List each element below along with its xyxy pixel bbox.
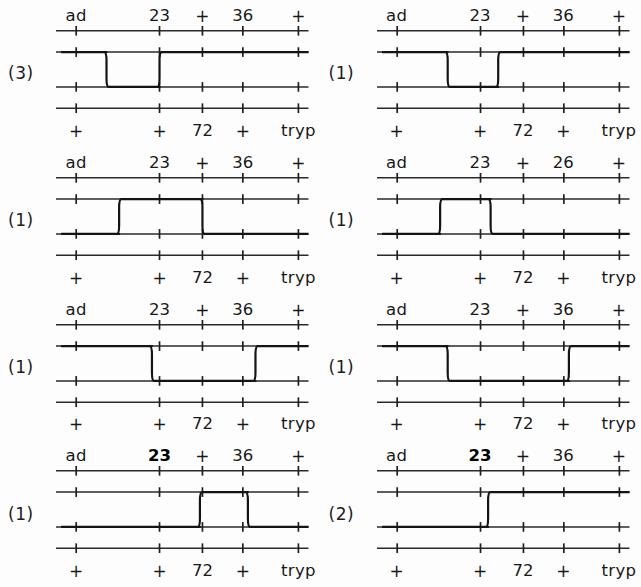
locus-label-bottom: + xyxy=(473,268,487,288)
bottom-locus-labels: ++72+tryp xyxy=(56,121,309,141)
bottom-locus-labels: ++72+tryp xyxy=(56,414,309,434)
locus-label-top: + xyxy=(195,446,209,466)
locus-label-top: 23 xyxy=(470,6,491,26)
locus-label-top: ad xyxy=(66,446,87,466)
locus-label-bottom: 72 xyxy=(192,268,213,288)
locus-label-bottom: + xyxy=(236,121,250,141)
locus-label-bottom: tryp xyxy=(281,414,316,434)
top-locus-labels: ad23+36+ xyxy=(56,153,309,173)
locus-label-bottom: tryp xyxy=(602,121,637,141)
tetrad-panel: (1)ad23+36+++72+tryp xyxy=(0,147,321,294)
chromosome-tracks xyxy=(377,172,630,269)
locus-label-bottom: + xyxy=(69,268,83,288)
locus-label-bottom: 72 xyxy=(192,121,213,141)
locus-label-bottom: + xyxy=(152,268,166,288)
locus-label-bottom: + xyxy=(556,121,570,141)
locus-label-top: 36 xyxy=(553,446,574,466)
crossover-trace xyxy=(382,199,629,234)
locus-label-top: 36 xyxy=(232,6,253,26)
locus-label-top: ad xyxy=(386,153,407,173)
locus-label-top: + xyxy=(612,446,626,466)
locus-label-bottom: tryp xyxy=(602,414,637,434)
locus-label-bottom: 72 xyxy=(192,561,213,581)
locus-label-bottom: + xyxy=(152,121,166,141)
crossover-trace xyxy=(61,52,308,87)
panel-plot: ad23+36+++72+tryp xyxy=(377,446,630,581)
panel-count-label: (1) xyxy=(329,357,355,377)
panel-count-label: (1) xyxy=(329,63,355,83)
locus-label-bottom: tryp xyxy=(281,121,316,141)
locus-label-top: + xyxy=(516,300,530,320)
locus-label-bottom: + xyxy=(152,414,166,434)
bottom-locus-labels: ++72+tryp xyxy=(56,268,309,288)
locus-label-bottom: + xyxy=(390,561,404,581)
locus-label-bottom: + xyxy=(152,561,166,581)
locus-label-top: + xyxy=(516,446,530,466)
locus-label-top: 36 xyxy=(232,153,253,173)
locus-label-bottom: + xyxy=(556,414,570,434)
locus-label-top: ad xyxy=(66,153,87,173)
tetrad-panel: (1)ad23+36+++72+tryp xyxy=(321,294,641,441)
top-locus-labels: ad23+36+ xyxy=(56,446,309,466)
locus-label-bottom: + xyxy=(473,121,487,141)
locus-label-bottom: + xyxy=(556,561,570,581)
bottom-locus-labels: ++72+tryp xyxy=(56,561,309,581)
locus-label-bottom: + xyxy=(473,414,487,434)
tetrad-panel: (2)ad23+36+++72+tryp xyxy=(321,440,641,587)
locus-label-top: + xyxy=(291,446,305,466)
locus-label-bottom: tryp xyxy=(602,561,637,581)
locus-label-bottom: + xyxy=(236,561,250,581)
locus-label-top: + xyxy=(195,6,209,26)
locus-label-top: 23 xyxy=(469,446,492,466)
panel-count-label: (1) xyxy=(329,210,355,230)
locus-label-bottom: 72 xyxy=(192,414,213,434)
locus-label-top: ad xyxy=(66,300,87,320)
tetrad-panel: (1)ad23+26+++72+tryp xyxy=(321,147,641,294)
locus-label-bottom: + xyxy=(390,414,404,434)
top-locus-labels: ad23+36+ xyxy=(377,300,630,320)
bottom-locus-labels: ++72+tryp xyxy=(377,561,630,581)
chromosome-tracks xyxy=(377,25,630,122)
chromosome-tracks xyxy=(56,25,309,122)
panel-plot: ad23+36+++72+tryp xyxy=(56,300,309,435)
locus-label-bottom: + xyxy=(473,561,487,581)
locus-label-top: 36 xyxy=(553,6,574,26)
locus-label-top: + xyxy=(291,6,305,26)
locus-label-top: + xyxy=(195,153,209,173)
panel-plot: ad23+36+++72+tryp xyxy=(377,6,630,141)
locus-label-top: ad xyxy=(386,6,407,26)
tetrad-panel: (3)ad23+36+++72+tryp xyxy=(0,0,321,147)
locus-label-bottom: 72 xyxy=(512,121,533,141)
locus-label-top: ad xyxy=(386,446,407,466)
locus-label-top: 36 xyxy=(553,300,574,320)
top-locus-labels: ad23+26+ xyxy=(377,153,630,173)
panel-count-label: (1) xyxy=(8,504,34,524)
panel-plot: ad23+26+++72+tryp xyxy=(377,153,630,288)
locus-label-bottom: + xyxy=(390,268,404,288)
top-locus-labels: ad23+36+ xyxy=(377,446,630,466)
panel-plot: ad23+36+++72+tryp xyxy=(56,153,309,288)
panel-count-label: (1) xyxy=(8,210,34,230)
crossover-trace xyxy=(382,346,629,381)
tetrad-panel: (1)ad23+36+++72+tryp xyxy=(0,440,321,587)
locus-label-top: 23 xyxy=(149,300,170,320)
locus-label-top: 23 xyxy=(148,446,171,466)
panel-plot: ad23+36+++72+tryp xyxy=(56,446,309,581)
locus-label-top: ad xyxy=(386,300,407,320)
locus-label-bottom: tryp xyxy=(602,268,637,288)
locus-label-bottom: + xyxy=(236,414,250,434)
locus-label-top: 23 xyxy=(149,153,170,173)
locus-label-bottom: + xyxy=(556,268,570,288)
locus-label-bottom: + xyxy=(390,121,404,141)
locus-label-top: 26 xyxy=(553,153,574,173)
locus-label-bottom: + xyxy=(69,414,83,434)
locus-label-top: 23 xyxy=(470,153,491,173)
bottom-locus-labels: ++72+tryp xyxy=(377,414,630,434)
locus-label-top: + xyxy=(612,6,626,26)
locus-label-bottom: tryp xyxy=(281,561,316,581)
tetrad-panel: (1)ad23+36+++72+tryp xyxy=(0,294,321,441)
top-locus-labels: ad23+36+ xyxy=(56,6,309,26)
crossover-trace xyxy=(382,52,629,87)
panel-count-label: (2) xyxy=(329,504,355,524)
locus-label-top: + xyxy=(516,6,530,26)
